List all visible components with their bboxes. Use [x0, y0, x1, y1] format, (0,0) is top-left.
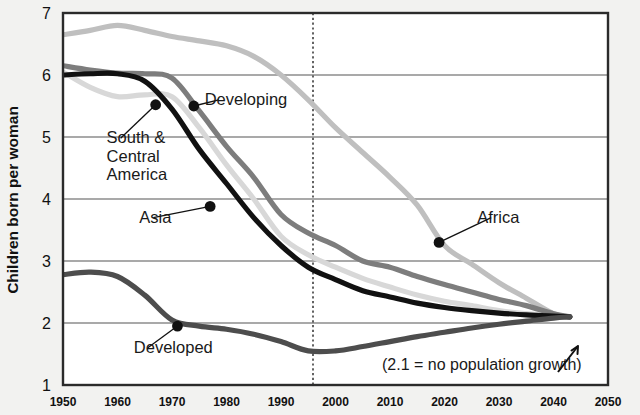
series-marker-africa [434, 237, 445, 248]
x-tick-label-1990: 1990 [268, 395, 295, 409]
series-label-south-central-america: South &CentralAmerica [107, 128, 168, 183]
x-tick-label-2030: 2030 [486, 395, 513, 409]
x-tick-label-2010: 2010 [377, 395, 404, 409]
y-axis-ticks: 1234567 [42, 5, 51, 394]
series-label-asia: Asia [139, 208, 172, 226]
y-tick-label-2: 2 [42, 315, 51, 332]
y-tick-label-3: 3 [42, 253, 51, 270]
x-axis-ticks: 1950196019701980199020002010202020302040… [50, 395, 622, 409]
y-tick-label-6: 6 [42, 67, 51, 84]
series-marker-developing [188, 101, 199, 112]
y-tick-label-7: 7 [42, 5, 51, 22]
series-marker-developed [172, 321, 183, 332]
y-axis-title: Children born per woman [4, 106, 21, 294]
replacement-level-note: (2.1 = no population growth) [382, 356, 582, 373]
x-tick-label-1950: 1950 [50, 395, 77, 409]
x-tick-label-1970: 1970 [159, 395, 186, 409]
series-marker-asia [205, 201, 216, 212]
x-tick-label-2040: 2040 [540, 395, 567, 409]
fertility-rate-line-chart: 1234567 19501960197019801990200020102020… [0, 0, 640, 415]
y-tick-label-4: 4 [42, 191, 51, 208]
x-tick-label-2020: 2020 [431, 395, 458, 409]
x-tick-label-1960: 1960 [104, 395, 131, 409]
series-marker-south-central-america [150, 99, 161, 110]
series-label-developing: Developing [205, 90, 288, 108]
x-tick-label-1980: 1980 [213, 395, 240, 409]
y-tick-label-5: 5 [42, 129, 51, 146]
y-tick-label-1: 1 [42, 377, 51, 394]
x-tick-label-2000: 2000 [322, 395, 349, 409]
series-label-africa: Africa [477, 208, 520, 226]
series-label-developed: Developed [134, 338, 213, 356]
x-tick-label-2050: 2050 [595, 395, 622, 409]
